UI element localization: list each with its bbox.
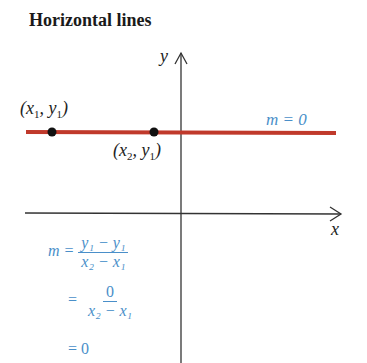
point-1 <box>48 128 57 137</box>
coordinate-plane <box>0 0 367 363</box>
x-axis-label: x <box>331 219 339 240</box>
fraction-2-numerator: 0 <box>103 283 117 302</box>
fraction-2-denominator: x₂ − x₁ <box>85 302 135 320</box>
equation-line-2: = 0 x₂ − x₁ <box>68 283 135 320</box>
horizontal-line <box>26 132 336 133</box>
y-axis-label: y <box>160 46 168 67</box>
equation-equals: = <box>68 291 77 308</box>
point-2-label: (x2, y1) <box>113 140 161 162</box>
fraction-1: y₁ − y₁ x₂ − x₁ <box>78 234 128 271</box>
point-1-label: (x1, y1) <box>20 98 68 120</box>
slope-label: m = 0 <box>266 110 307 130</box>
equation-line-1: m = y₁ − y₁ x₂ − x₁ <box>48 234 128 271</box>
point-2 <box>150 128 159 137</box>
equation-lhs: m = <box>48 242 74 259</box>
equation-line-3: = 0 <box>68 340 89 358</box>
x-axis <box>25 213 341 214</box>
fraction-1-numerator: y₁ − y₁ <box>78 234 128 253</box>
fraction-2: 0 x₂ − x₁ <box>85 283 135 320</box>
fraction-1-denominator: x₂ − x₁ <box>78 253 128 271</box>
